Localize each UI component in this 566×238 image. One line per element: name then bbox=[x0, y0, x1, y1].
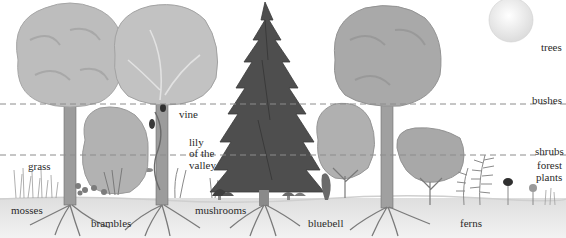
label-ferns: ferns bbox=[460, 218, 482, 229]
layer-label-forest: forest bbox=[537, 160, 562, 171]
label-vine: vine bbox=[179, 109, 198, 120]
forest-layers-illustration bbox=[0, 0, 566, 238]
layer-label-trees: trees bbox=[541, 42, 562, 53]
label-lily-line3: valley bbox=[189, 160, 216, 171]
label-bluebell: bluebell bbox=[308, 218, 343, 229]
lily-of-the-valley-plant bbox=[175, 168, 218, 198]
layer-label-bushes: bushes bbox=[532, 95, 562, 106]
bush-left bbox=[82, 107, 148, 195]
label-brambles: brambles bbox=[91, 218, 131, 229]
label-lily-line2: of the bbox=[189, 148, 214, 159]
layer-label-shrubs: shrubs bbox=[535, 146, 564, 157]
grass-tuft bbox=[14, 168, 58, 198]
label-mosses: mosses bbox=[11, 205, 43, 216]
shrub-right bbox=[397, 128, 464, 205]
layer-label-plants: plants bbox=[536, 172, 562, 183]
label-mushrooms: mushrooms bbox=[195, 205, 246, 216]
label-grass: grass bbox=[28, 161, 51, 172]
bluebell-plant bbox=[321, 173, 330, 200]
sun bbox=[489, 0, 533, 42]
